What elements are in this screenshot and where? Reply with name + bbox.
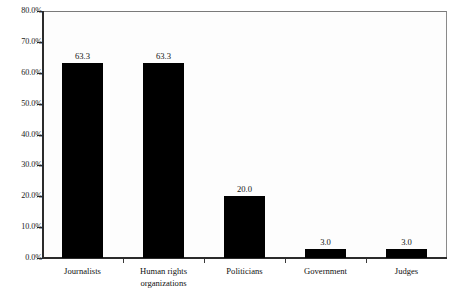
x-axis-tick-mark <box>123 259 124 263</box>
y-axis-tick-mark <box>37 165 42 166</box>
y-axis-tick-mark <box>37 227 42 228</box>
y-axis-line <box>42 11 44 259</box>
bar <box>62 63 103 258</box>
x-axis-tick-mark <box>204 259 205 263</box>
x-axis-category-label: Judges <box>352 266 462 278</box>
y-axis-tick-mark <box>37 42 42 43</box>
y-axis-tick-mark <box>37 196 42 197</box>
bar-value-label: 3.0 <box>377 237 437 247</box>
bar-value-label: 63.3 <box>53 51 113 61</box>
bar-value-label: 20.0 <box>215 184 275 194</box>
x-axis-tick-mark <box>285 259 286 263</box>
y-axis-tick-mark <box>37 135 42 136</box>
bar-chart: 0.0%10.0%20.0%30.0%40.0%50.0%60.0%70.0%8… <box>0 0 463 295</box>
bar-value-label: 63.3 <box>134 51 194 61</box>
bar <box>143 63 184 258</box>
y-axis-tick-mark <box>37 73 42 74</box>
x-axis-category-label-line: Judges <box>352 266 462 278</box>
x-axis-tick-mark <box>366 259 367 263</box>
bar <box>224 196 265 258</box>
bar-value-label: 3.0 <box>296 237 356 247</box>
bar <box>305 249 346 258</box>
y-axis-tick-mark <box>37 104 42 105</box>
y-axis-tick-mark <box>37 258 42 259</box>
bar <box>386 249 427 258</box>
y-axis-tick-mark <box>37 11 42 12</box>
x-axis-category-label-line: organizations <box>109 278 219 290</box>
